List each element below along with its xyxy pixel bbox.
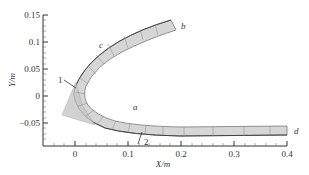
mesh-chart: 0.15 0.1 0.05 0 −0.05 Y/m 0 0.1 0.2 [0, 0, 309, 175]
label-c: c [99, 40, 103, 50]
label-1: 1 [58, 75, 63, 85]
label-2: 2 [144, 137, 149, 147]
x-axis-label: X/m [155, 159, 171, 169]
label-a: a [133, 102, 138, 112]
x-tick-0.4: 0.4 [281, 149, 293, 159]
x-tick-0.1: 0.1 [122, 149, 133, 159]
y-tick-neg0.05: −0.05 [19, 118, 40, 128]
x-tick-0: 0 [73, 149, 78, 159]
y-tick-0.15: 0.15 [24, 10, 40, 20]
x-axis: 0 0.1 0.2 0.3 0.4 X/m [43, 141, 293, 169]
mesh-region [74, 20, 287, 136]
y-tick-0: 0 [36, 91, 41, 101]
mesh-band [62, 20, 287, 136]
y-axis-label: Y/m [7, 73, 17, 88]
y-tick-0.1: 0.1 [29, 37, 40, 47]
label-d: d [294, 126, 299, 136]
pointer-1 [64, 80, 76, 88]
y-tick-0.05: 0.05 [24, 64, 40, 74]
x-tick-0.2: 0.2 [175, 149, 186, 159]
label-b: b [181, 21, 186, 31]
chart-svg: 0.15 0.1 0.05 0 −0.05 Y/m 0 0.1 0.2 [0, 0, 309, 175]
x-tick-0.3: 0.3 [228, 149, 240, 159]
y-axis: 0.15 0.1 0.05 0 −0.05 Y/m [7, 10, 48, 146]
